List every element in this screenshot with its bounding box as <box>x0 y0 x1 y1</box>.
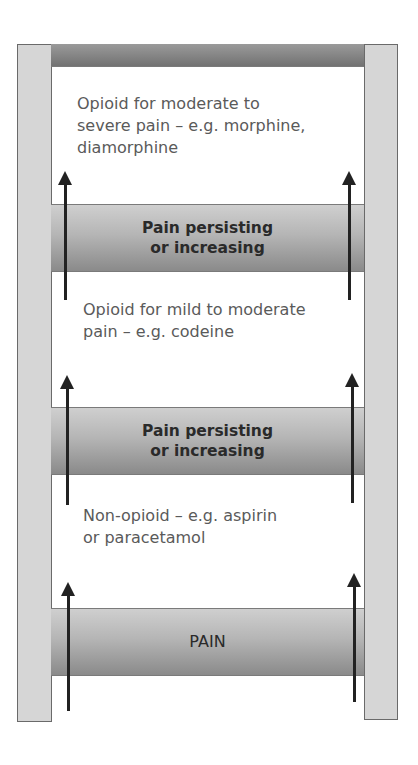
step-3-text: Opioid for moderate to severe pain – e.g… <box>77 93 305 159</box>
rung-label: PAIN <box>189 632 225 652</box>
rung-label-line1: Pain persisting <box>142 218 273 238</box>
step-1-text: Non-opioid – e.g. aspirin or paracetamol <box>83 505 277 549</box>
step-2-text: Opioid for mild to moderate pain – e.g. … <box>83 299 306 343</box>
step-2-line1: Opioid for mild to moderate <box>83 299 306 321</box>
rung-label-line2: or increasing <box>142 238 273 258</box>
up-arrow-icon <box>351 386 354 503</box>
rung-label-line2: or increasing <box>142 441 273 461</box>
rung-label-line1: Pain persisting <box>142 421 273 441</box>
up-arrow-icon <box>353 586 356 702</box>
rung-pain-persisting-lower: Pain persisting or increasing <box>51 407 364 475</box>
step-2-line2: pain – e.g. codeine <box>83 321 306 343</box>
up-arrow-icon <box>66 388 69 505</box>
step-3-line3: diamorphine <box>77 137 305 159</box>
up-arrow-icon <box>64 184 67 300</box>
rung-pain: PAIN <box>51 608 364 676</box>
step-1-line2: or paracetamol <box>83 527 277 549</box>
up-arrow-icon <box>348 184 351 300</box>
top-rung <box>51 44 364 67</box>
right-ladder-rail <box>364 44 398 720</box>
left-ladder-rail <box>17 44 52 722</box>
step-3-line2: severe pain – e.g. morphine, <box>77 115 305 137</box>
step-3-line1: Opioid for moderate to <box>77 93 305 115</box>
up-arrow-icon <box>67 595 70 711</box>
rung-pain-persisting-upper: Pain persisting or increasing <box>51 204 364 272</box>
step-1-line1: Non-opioid – e.g. aspirin <box>83 505 277 527</box>
